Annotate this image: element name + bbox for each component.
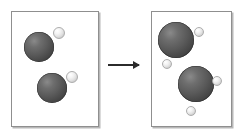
- large-sphere-1: [24, 32, 54, 62]
- large-sphere-3: [158, 22, 194, 58]
- small-sphere-5: [212, 76, 222, 86]
- small-sphere-2: [66, 71, 78, 83]
- large-sphere-2: [37, 73, 67, 103]
- small-sphere-1: [53, 27, 65, 39]
- arrow-head-icon: [133, 61, 140, 69]
- small-sphere-4: [162, 59, 172, 69]
- particle-diagram: [0, 0, 247, 134]
- small-sphere-6: [186, 106, 196, 116]
- small-sphere-3: [194, 27, 204, 37]
- large-sphere-4: [178, 66, 214, 102]
